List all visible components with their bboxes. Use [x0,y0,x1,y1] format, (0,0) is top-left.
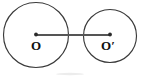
scan-artifact-smudge [56,73,84,75]
label-point-o-prime: O′ [101,38,115,53]
center-point-o-dot [34,33,38,37]
figure-container: O O′ [0,0,141,77]
geometry-diagram-canvas: O O′ [0,0,141,77]
center-point-o-prime-dot [108,33,112,37]
label-point-o: O [31,38,41,53]
